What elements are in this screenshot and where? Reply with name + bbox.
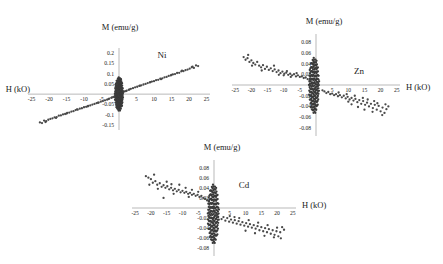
data-point [356, 101, 358, 103]
x-tick-label: 15 [362, 87, 368, 93]
data-point [364, 104, 366, 106]
y-tick-label: -0.04 [299, 103, 311, 109]
data-point [178, 72, 180, 74]
data-point [295, 72, 297, 74]
data-point [159, 182, 161, 184]
data-point [341, 96, 343, 98]
data-point [254, 228, 256, 230]
data-point [301, 75, 303, 77]
data-point [41, 122, 43, 124]
x-tick-label: 10 [151, 96, 157, 102]
data-point [362, 97, 364, 99]
data-point [209, 236, 211, 238]
data-point [279, 231, 281, 233]
data-point [295, 75, 297, 77]
data-point [217, 228, 219, 230]
x-axis-title: H (kO) [302, 200, 326, 210]
data-point [350, 97, 352, 99]
data-point [372, 107, 374, 109]
data-point [263, 235, 265, 237]
data-point [376, 102, 378, 104]
data-point [317, 104, 319, 106]
y-tick-label: 0.08 [301, 39, 311, 45]
data-point [354, 98, 356, 100]
data-point [305, 76, 307, 78]
data-point [354, 95, 356, 97]
data-point [211, 186, 213, 188]
x-tick-label: 5 [135, 96, 138, 102]
data-point [248, 219, 250, 221]
data-point [357, 106, 359, 108]
series-label: Zn [354, 66, 364, 76]
data-point [104, 99, 106, 101]
x-tick-label: -25 [231, 87, 239, 93]
data-point [370, 103, 372, 105]
x-tick-label: 15 [169, 96, 175, 102]
data-point [280, 237, 282, 239]
data-point [270, 67, 272, 69]
data-point [204, 198, 206, 200]
data-point [164, 187, 166, 189]
x-tick-label: 20 [186, 96, 192, 102]
data-point [310, 106, 312, 108]
data-point [139, 85, 141, 87]
data-point [197, 191, 199, 193]
y-tick-label: -0.06 [197, 235, 209, 241]
data-point [197, 65, 199, 67]
data-point [281, 226, 283, 228]
data-point [49, 118, 51, 120]
data-point [261, 69, 263, 71]
data-point [210, 238, 212, 240]
data-point [273, 65, 275, 67]
data-point [222, 216, 224, 218]
x-tick-label: 25 [204, 96, 210, 102]
y-tick-label: 0.15 [104, 60, 114, 66]
data-point [176, 72, 178, 74]
x-tick-label: -15 [63, 96, 71, 102]
data-point [118, 76, 120, 78]
data-point [286, 70, 288, 72]
data-point [321, 89, 323, 91]
data-point [224, 219, 226, 221]
data-point [114, 98, 116, 100]
data-point [215, 239, 217, 241]
y-tick-label: 0.04 [199, 185, 209, 191]
data-point [273, 236, 275, 238]
data-point [337, 91, 339, 93]
data-point [283, 229, 285, 231]
data-point [309, 78, 311, 80]
x-tick-label: -20 [147, 210, 155, 216]
data-point [207, 209, 209, 211]
data-point [248, 61, 250, 63]
data-point [119, 109, 121, 111]
data-point [366, 102, 368, 104]
data-point [317, 66, 319, 68]
data-point [270, 233, 272, 235]
data-point [266, 231, 268, 233]
data-point [273, 234, 275, 236]
y-tick-label: 0.06 [301, 50, 311, 56]
data-point [244, 230, 246, 232]
data-point [251, 227, 253, 229]
data-point [114, 101, 116, 103]
data-point [308, 93, 310, 95]
data-point [346, 93, 348, 95]
data-point [166, 185, 168, 187]
data-point [381, 114, 383, 116]
series-label: Ni [158, 50, 167, 60]
data-point [208, 196, 210, 198]
data-point [230, 218, 232, 220]
data-point [276, 227, 278, 229]
data-point [196, 194, 198, 196]
data-point [145, 175, 147, 177]
data-point [325, 92, 327, 94]
data-point [241, 221, 243, 223]
data-point [229, 215, 231, 217]
data-point [358, 99, 360, 101]
x-tick-label: 15 [259, 210, 265, 216]
data-point [122, 96, 124, 98]
data-point [214, 242, 216, 244]
x-tick-label: -10 [80, 96, 88, 102]
data-point [258, 65, 260, 67]
data-point [264, 227, 266, 229]
